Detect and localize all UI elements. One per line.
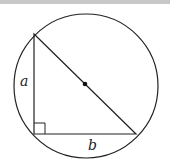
- center-point: [83, 82, 88, 87]
- label-b: b: [88, 137, 97, 153]
- label-a: a: [20, 73, 28, 89]
- right-angle-marker: [34, 123, 45, 134]
- inscribed-triangle-diagram: a b: [0, 0, 170, 166]
